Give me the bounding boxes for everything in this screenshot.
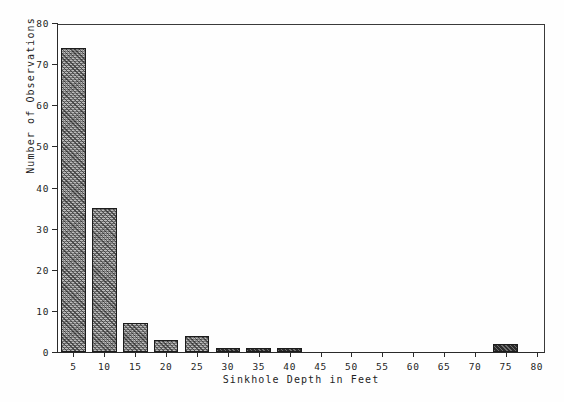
x-tick-mark bbox=[537, 352, 538, 357]
y-tick-label: 30 bbox=[36, 223, 49, 234]
y-tick-label: 60 bbox=[36, 100, 49, 111]
y-tick-label: 80 bbox=[36, 18, 49, 29]
bar bbox=[61, 48, 86, 352]
x-tick-mark bbox=[104, 352, 105, 357]
y-tick-mark bbox=[52, 146, 58, 147]
x-tick-mark bbox=[166, 352, 167, 357]
y-tick-mark bbox=[52, 311, 58, 312]
x-tick-mark bbox=[259, 352, 260, 357]
x-tick-label: 60 bbox=[407, 361, 420, 372]
x-tick-mark bbox=[444, 352, 445, 357]
bar bbox=[246, 348, 271, 352]
y-tick-label: 20 bbox=[36, 264, 49, 275]
x-tick-mark bbox=[197, 352, 198, 357]
x-tick-label: 45 bbox=[314, 361, 327, 372]
x-tick-mark bbox=[228, 352, 229, 357]
x-tick-label: 50 bbox=[345, 361, 358, 372]
bar bbox=[277, 348, 302, 352]
y-tick-label: 70 bbox=[36, 59, 49, 70]
bar bbox=[493, 344, 518, 352]
x-tick-label: 5 bbox=[70, 361, 76, 372]
y-tick-label: 40 bbox=[36, 182, 49, 193]
y-tick-label: 0 bbox=[43, 347, 49, 358]
y-tick-mark bbox=[52, 188, 58, 189]
x-tick-label: 70 bbox=[469, 361, 482, 372]
x-tick-mark bbox=[290, 352, 291, 357]
y-tick-label: 50 bbox=[36, 141, 49, 152]
plot-area: 01020304050607080 5101520253035404550556… bbox=[57, 24, 545, 353]
x-tick-label: 15 bbox=[129, 361, 142, 372]
y-axis-title: Number of Observations bbox=[25, 0, 36, 196]
x-tick-label: 65 bbox=[438, 361, 451, 372]
x-tick-label: 30 bbox=[222, 361, 235, 372]
x-tick-label: 35 bbox=[252, 361, 265, 372]
y-tick-mark bbox=[52, 64, 58, 65]
y-tick-mark bbox=[52, 352, 58, 353]
x-tick-mark bbox=[73, 352, 74, 357]
x-tick-mark bbox=[135, 352, 136, 357]
y-tick-mark bbox=[52, 270, 58, 271]
x-axis-title: Sinkhole Depth in Feet bbox=[57, 374, 545, 385]
x-tick-mark bbox=[321, 352, 322, 357]
chart-figure: 01020304050607080 5101520253035404550556… bbox=[0, 0, 564, 402]
y-tick-label: 10 bbox=[36, 305, 49, 316]
y-tick-mark bbox=[52, 229, 58, 230]
bar bbox=[216, 348, 241, 352]
y-tick-mark bbox=[52, 23, 58, 24]
bar bbox=[185, 336, 210, 352]
x-tick-label: 25 bbox=[191, 361, 204, 372]
bar bbox=[92, 208, 117, 352]
x-tick-mark bbox=[413, 352, 414, 357]
x-tick-mark bbox=[475, 352, 476, 357]
x-tick-label: 20 bbox=[160, 361, 173, 372]
x-tick-mark bbox=[351, 352, 352, 357]
x-tick-label: 40 bbox=[283, 361, 296, 372]
bar bbox=[154, 340, 179, 352]
y-tick-mark bbox=[52, 105, 58, 106]
x-tick-label: 10 bbox=[98, 361, 111, 372]
x-tick-mark bbox=[506, 352, 507, 357]
bar bbox=[123, 323, 148, 352]
x-tick-label: 75 bbox=[500, 361, 513, 372]
x-tick-label: 80 bbox=[530, 361, 543, 372]
x-tick-label: 55 bbox=[376, 361, 389, 372]
x-tick-mark bbox=[382, 352, 383, 357]
